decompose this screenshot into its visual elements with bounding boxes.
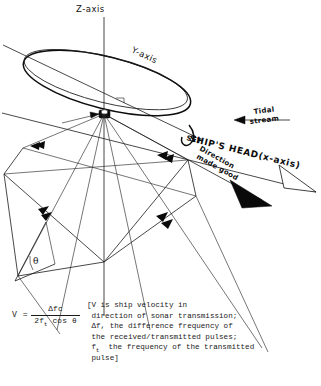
solid-arrowhead-icon (230, 180, 272, 208)
y-axis-label: Y-axis (129, 44, 159, 65)
diagram-root: θ Z-axis Y-axis SHIP'S HEAD(x-axis) SET … (0, 0, 321, 386)
z-axis-label: Z-axis (76, 4, 105, 14)
formula-bracket-text: [V is ship velocity in direction of sona… (80, 300, 254, 364)
footprint-outline-upper (4, 148, 188, 262)
velocity-equation: V = Δfc 2ft cos θ (12, 300, 80, 327)
formula-bracket-line: pulse] (87, 353, 254, 364)
footprint-outline-right (104, 160, 196, 262)
formula-bracket-line: the received/transmitted pulses; (87, 332, 254, 343)
equation-fraction: Δfc 2ft cos θ (31, 304, 80, 327)
theta-symbol-label: θ (33, 256, 38, 266)
formula-bracket-line: ft the frequency of the transmitted (87, 342, 254, 353)
labels-group: Z-axis Y-axis SHIP'S HEAD(x-axis) SET Di… (76, 4, 301, 182)
beam-incoming-arrowhead-icon (90, 112, 99, 118)
theta-baseline (15, 264, 55, 281)
beam-ray-forward-port (23, 114, 104, 148)
tidal-stream-label-line2: stream (249, 114, 279, 126)
beam-ray-port-lower (57, 114, 104, 330)
denominator-post: cos θ (48, 317, 77, 325)
footprint-diagonal-b (4, 160, 188, 174)
tidal-stream-arrowhead-icon (234, 116, 245, 124)
beam-ray-aft-port (18, 114, 104, 276)
y-axis-line (3, 45, 196, 137)
velocity-formula-block: V = Δfc 2ft cos θ [V is ship velocity in… (12, 300, 312, 364)
formula-bracket-line: [V is ship velocity in (87, 300, 254, 311)
transducer-face-icon (101, 110, 108, 115)
theta-vertical-leg (46, 222, 55, 264)
beam-ray-starboard-lower (104, 114, 150, 330)
equation-lhs: V = (12, 310, 31, 320)
formula-bracket-line: Δf, the difference frequency of (87, 321, 254, 332)
equation-numerator: Δfc (43, 304, 68, 315)
theta-angle-group: θ (15, 222, 55, 281)
formula-bracket-line: direction of sonar transmission; (87, 311, 254, 322)
equation-denominator: 2ft cos θ (31, 316, 80, 327)
denominator-pre: 2f (34, 317, 44, 325)
